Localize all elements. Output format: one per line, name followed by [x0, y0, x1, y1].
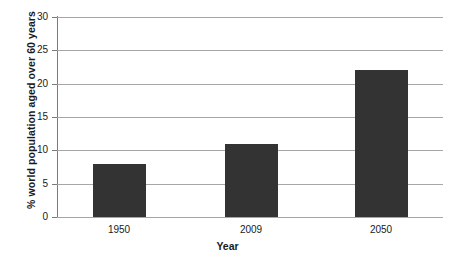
y-tick-label: 0: [6, 211, 48, 222]
y-tick-label: 25: [6, 44, 48, 55]
plot-area: [57, 17, 443, 217]
bar-chart: % world population aged over 60 years 05…: [0, 0, 455, 270]
y-tick-label: 30: [6, 11, 48, 22]
y-tick-mark: [52, 217, 57, 218]
y-tick-label: 15: [6, 111, 48, 122]
bar: [355, 70, 408, 217]
y-tick-label: 10: [6, 144, 48, 155]
x-axis-line: [57, 217, 443, 218]
x-tick-label: 2009: [211, 224, 291, 235]
y-tick-label: 20: [6, 78, 48, 89]
x-axis-title: Year: [0, 240, 455, 252]
y-tick-label: 5: [6, 178, 48, 189]
gridline: [57, 50, 443, 51]
bar: [225, 144, 278, 217]
x-tick-label: 2050: [341, 224, 421, 235]
bar: [93, 164, 146, 217]
gridline: [57, 17, 443, 18]
x-tick-label: 1950: [79, 224, 159, 235]
